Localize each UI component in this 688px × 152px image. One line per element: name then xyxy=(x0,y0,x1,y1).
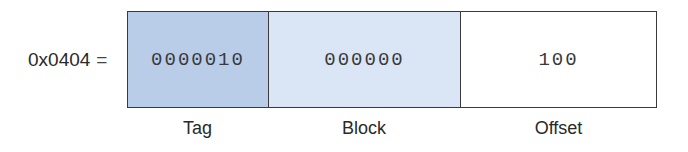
address-value: 0x0404 xyxy=(28,49,90,70)
offset-caption: Offset xyxy=(460,118,657,139)
tag-caption: Tag xyxy=(127,118,268,139)
equals-sign: = xyxy=(96,49,107,70)
block-bits: 000000 xyxy=(324,49,404,71)
address-bit-fields: 0000010 000000 100 xyxy=(127,11,657,108)
tag-field: 0000010 xyxy=(128,12,269,107)
tag-bits: 0000010 xyxy=(151,49,245,71)
offset-bits: 100 xyxy=(538,49,578,71)
block-caption: Block xyxy=(268,118,460,139)
offset-field: 100 xyxy=(461,12,656,107)
block-field: 000000 xyxy=(269,12,461,107)
address-label: 0x0404= xyxy=(28,45,124,75)
